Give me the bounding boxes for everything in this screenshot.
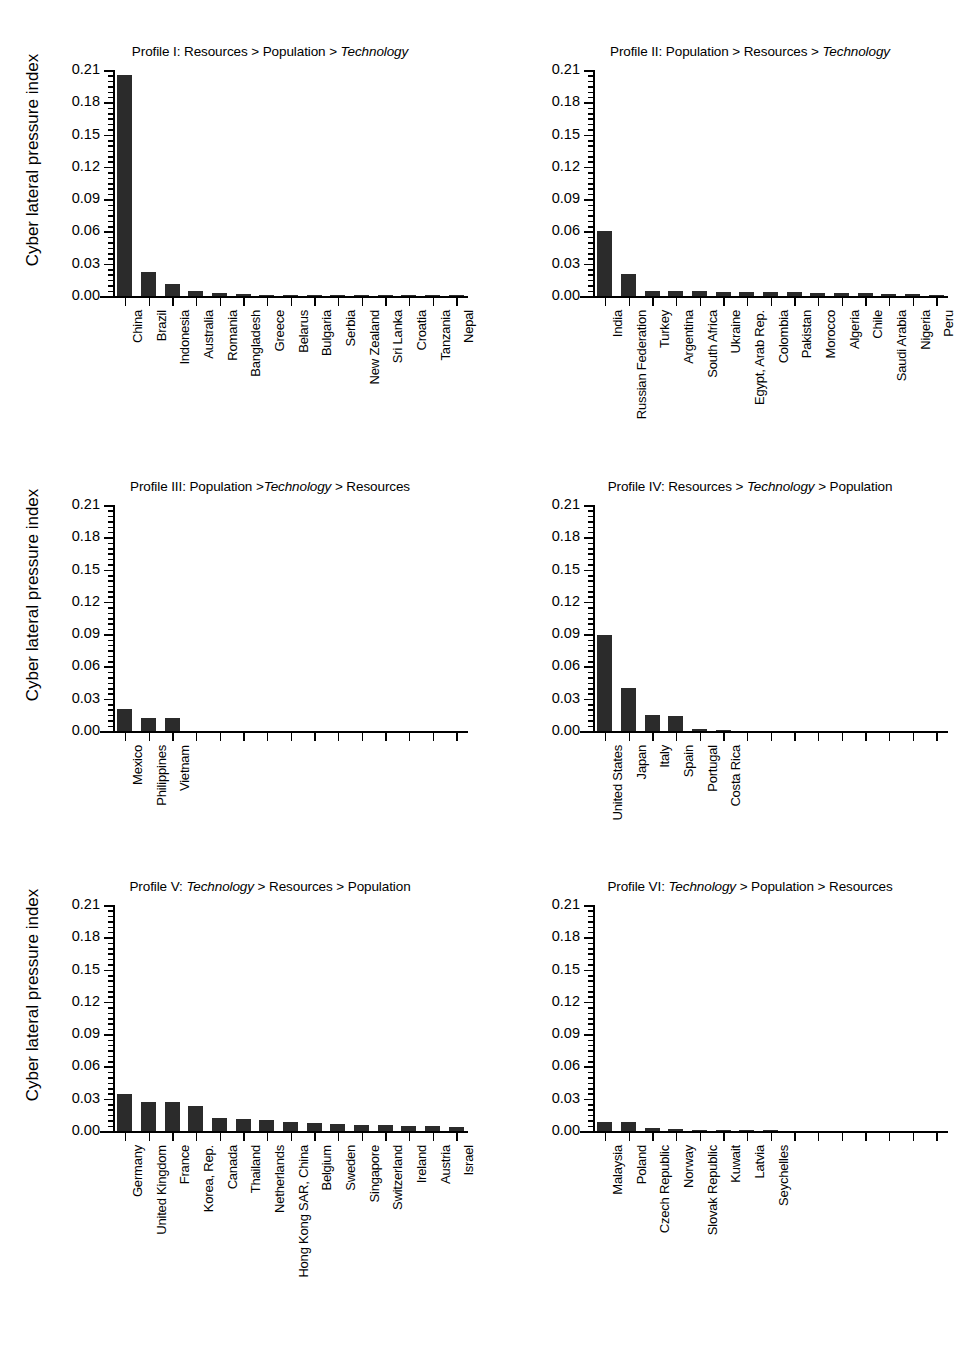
panel-title-prefix: Profile IV: Resources > xyxy=(608,479,747,494)
x-tick xyxy=(913,1132,915,1141)
plot-area: 0.000.030.060.090.120.150.180.21IndiaRus… xyxy=(593,70,948,296)
y-tick-major: 0.12 xyxy=(104,1002,113,1004)
y-tick-minor xyxy=(588,564,593,566)
y-tick-minor xyxy=(588,124,593,126)
y-tick-minor xyxy=(108,1072,113,1074)
y-tick-major: 0.03 xyxy=(584,699,593,701)
x-tick-label: United Kingdom xyxy=(154,1145,169,1235)
x-tick-label: United States xyxy=(610,745,625,820)
y-tick-minor xyxy=(588,151,593,153)
y-tick-minor xyxy=(108,1077,113,1079)
x-tick xyxy=(889,732,891,741)
y-tick-minor xyxy=(108,237,113,239)
bar xyxy=(165,284,180,296)
bar xyxy=(597,635,612,731)
y-tick-label: 0.15 xyxy=(72,126,100,142)
x-tick-label: Norway xyxy=(681,1145,696,1188)
y-axis-spine xyxy=(113,70,115,296)
y-axis-spine xyxy=(593,505,595,731)
x-tick xyxy=(196,1132,198,1141)
x-tick-label: Greece xyxy=(272,310,287,351)
y-tick-label: 0.21 xyxy=(552,496,580,512)
y-tick-minor xyxy=(588,527,593,529)
y-tick-minor xyxy=(588,140,593,142)
x-tick xyxy=(409,297,411,306)
y-tick-major: 0.09 xyxy=(584,634,593,636)
y-tick-minor xyxy=(108,991,113,993)
y-tick-major: 0.12 xyxy=(584,1002,593,1004)
bar xyxy=(141,272,156,296)
chart-panel-ii: Profile II: Population > Resources > Tec… xyxy=(480,30,967,470)
bar xyxy=(716,1130,731,1131)
bar xyxy=(668,716,683,731)
y-tick-minor xyxy=(588,1083,593,1085)
y-tick-major: 0.03 xyxy=(104,699,113,701)
y-tick-major: 0.06 xyxy=(584,1066,593,1068)
y-tick-minor xyxy=(108,980,113,982)
bar xyxy=(621,1122,636,1131)
y-tick-minor xyxy=(588,75,593,77)
y-tick-label: 0.21 xyxy=(552,61,580,77)
x-tick xyxy=(771,1132,773,1141)
x-tick-label: Australia xyxy=(201,310,216,359)
bar xyxy=(425,295,440,296)
y-tick-major: 0.18 xyxy=(104,102,113,104)
x-tick-label: South Africa xyxy=(705,310,720,378)
x-tick-label: Vietnam xyxy=(177,745,192,791)
y-tick-major: 0.06 xyxy=(104,231,113,233)
y-tick-minor xyxy=(588,980,593,982)
x-tick xyxy=(196,732,198,741)
y-tick-minor xyxy=(108,726,113,728)
x-tick xyxy=(629,732,631,741)
y-tick-label: 0.12 xyxy=(72,158,100,174)
panel-title-suffix: > Resources > Population xyxy=(254,879,411,894)
bar xyxy=(692,291,707,296)
x-tick xyxy=(723,732,725,741)
bar xyxy=(645,1128,660,1131)
x-tick xyxy=(676,732,678,741)
x-tick-label: Croatia xyxy=(414,310,429,351)
x-tick xyxy=(433,1132,435,1141)
panel-title-prefix: Profile VI: xyxy=(607,879,668,894)
x-tick xyxy=(220,732,222,741)
y-tick-label: 0.00 xyxy=(72,287,100,303)
x-tick xyxy=(362,1132,364,1141)
y-tick-minor xyxy=(108,548,113,550)
y-tick-minor xyxy=(588,237,593,239)
y-tick-minor xyxy=(588,188,593,190)
x-tick-label: Sweden xyxy=(343,1145,358,1191)
y-tick-minor xyxy=(108,521,113,523)
panel-title-ii: Profile II: Population > Resources > Tec… xyxy=(540,44,960,59)
x-tick xyxy=(818,297,820,306)
x-tick xyxy=(409,1132,411,1141)
y-tick-minor xyxy=(588,607,593,609)
plot-area: 0.000.030.060.090.120.150.180.21Malaysia… xyxy=(593,905,948,1131)
bar xyxy=(668,1129,683,1131)
y-tick-major: 0.00 xyxy=(104,1131,113,1133)
y-tick-minor xyxy=(108,629,113,631)
y-tick-minor xyxy=(108,280,113,282)
x-tick xyxy=(771,297,773,306)
y-tick-minor xyxy=(108,553,113,555)
x-tick-label: Latvia xyxy=(752,1145,767,1179)
y-tick-label: 0.18 xyxy=(72,928,100,944)
x-tick-label: Turkey xyxy=(657,310,672,348)
y-tick-minor xyxy=(588,910,593,912)
y-tick-minor xyxy=(588,1115,593,1117)
x-tick xyxy=(362,297,364,306)
y-tick-minor xyxy=(588,543,593,545)
y-tick-minor xyxy=(588,986,593,988)
bar xyxy=(858,293,873,296)
y-tick-major: 0.21 xyxy=(104,70,113,72)
x-tick-label: Japan xyxy=(634,745,649,779)
x-tick xyxy=(700,732,702,741)
x-tick-label: Germany xyxy=(130,1145,145,1197)
y-axis-label: Cyber lateral pressure index xyxy=(23,35,43,285)
x-tick xyxy=(314,297,316,306)
y-tick-minor xyxy=(108,543,113,545)
panel-title-prefix: Profile V: xyxy=(129,879,186,894)
y-tick-minor xyxy=(108,1040,113,1042)
panel-title-suffix: > Population > Resources xyxy=(736,879,893,894)
y-tick-minor xyxy=(588,991,593,993)
x-tick xyxy=(456,1132,458,1141)
